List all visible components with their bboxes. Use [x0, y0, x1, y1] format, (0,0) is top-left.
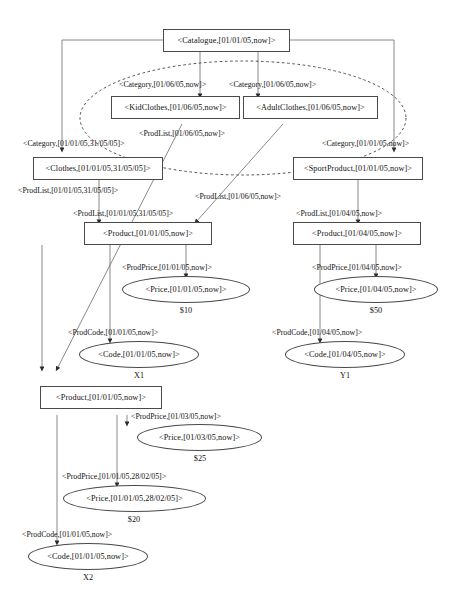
node-code-right-label: <Code,[01/04/05,now]>: [304, 350, 385, 359]
edge-label-prodlist-adult-mid: <ProdList,[01/06/05,now]>: [195, 192, 281, 201]
node-clothes[interactable]: <Clothes,[01/01/05,31/05/05]>: [33, 157, 163, 180]
node-adultclothes-label: <AdultClothes,[01/06/05,now]>: [256, 103, 365, 112]
edge-label-prodprice-right: <ProdPrice,[01/04/05,now]>: [312, 263, 402, 272]
node-product-bottom-label: <Product,[01/01/05,now]>: [56, 393, 146, 402]
edge-label-category-adult: <Category,[01/06/05,now]>: [229, 80, 316, 89]
node-product-left-label: <Product,[01/01/05,now]>: [103, 229, 193, 238]
edge-label-prodprice-left: <ProdPrice,[01/01/05,now]>: [122, 263, 212, 272]
node-sportproduct-label: <SportProduct,[01/01/05,now]>: [304, 164, 412, 173]
node-price-left-label: <Price,[01/01/05,now]>: [145, 285, 226, 294]
node-price-b2-label: <Price,[01/01/05,28/02/05]>: [86, 494, 183, 503]
node-clothes-label: <Clothes,[01/01/05,31/05/05]>: [46, 164, 151, 173]
value-price-b2: $20: [104, 515, 164, 524]
node-adultclothes[interactable]: <AdultClothes,[01/06/05,now]>: [243, 96, 378, 119]
edge-label-prodprice-b1: <ProdPrice,[01/03/05,now]>: [131, 412, 221, 421]
edge-label-category-sport: <Category,[01/01/05,now]>: [322, 139, 409, 148]
edge-label-prodlist-right: <ProdList,[01/04/05,now]>: [296, 209, 382, 218]
node-code-bottom[interactable]: <Code,[01/01/05,now]>: [28, 543, 148, 570]
node-price-b1-label: <Price,[01/03/05,now]>: [159, 433, 240, 442]
node-price-right[interactable]: <Price,[01/04/05,now]>: [314, 276, 438, 303]
diagram-canvas: <Catalogue,[01/01/05,now]> <KidClothes,[…: [0, 0, 451, 598]
edge-label-category-clothes: <Category,[01/01/05,31/05/05]>: [23, 139, 124, 148]
node-code-right[interactable]: <Code,[01/04/05,now]>: [285, 341, 405, 368]
node-code-left[interactable]: <Code,[01/01/05,now]>: [79, 341, 199, 368]
node-catalogue[interactable]: <Catalogue,[01/01/05,now]>: [163, 29, 290, 52]
node-kidclothes[interactable]: <KidClothes,[01/06/05,now]>: [111, 96, 240, 119]
edge-catalogue-sportproduct: [290, 40, 394, 150]
edge-label-prodlist-clothes-up: <ProdList,[01/01/05,31/05/05]>: [18, 186, 118, 195]
node-price-right-label: <Price,[01/04/05,now]>: [335, 285, 416, 294]
node-kidclothes-label: <KidClothes,[01/06/05,now]>: [125, 103, 227, 112]
value-code-right: Y1: [315, 371, 375, 380]
edge-label-category-kid: <Category,[01/06/05,now]>: [119, 80, 206, 89]
edge-adultclothes-product-left: [196, 124, 283, 222]
edge-label-prodcode-left: <ProdCode,[01/01/05,now]>: [68, 328, 158, 337]
node-price-b1[interactable]: <Price,[01/03/05,now]>: [137, 424, 262, 451]
node-product-right-label: <Product,[01/04/05,now]>: [312, 229, 402, 238]
edge-label-prodcode-right: <ProdCode,[01/04/05,now]>: [272, 328, 362, 337]
node-price-b2[interactable]: <Price,[01/01/05,28/02/05]>: [63, 485, 206, 512]
node-product-bottom[interactable]: <Product,[01/01/05,now]>: [40, 386, 162, 409]
node-code-bottom-label: <Code,[01/01/05,now]>: [47, 552, 128, 561]
value-price-left: $10: [156, 306, 216, 315]
node-product-left[interactable]: <Product,[01/01/05,now]>: [84, 222, 212, 245]
value-code-bottom: X2: [58, 573, 118, 582]
edge-label-prodlist-left: <ProdList,[01/01/05,31/05/05]>: [73, 209, 173, 218]
value-code-left: X1: [109, 371, 169, 380]
node-sportproduct[interactable]: <SportProduct,[01/01/05,now]>: [293, 157, 423, 180]
edge-label-prodcode-bottom: <ProdCode,[01/01/05,now]>: [22, 530, 112, 539]
node-price-left[interactable]: <Price,[01/01/05,now]>: [122, 276, 250, 303]
edge-label-prodlist-kid-top: <ProdList,[01/06/05,now]>: [139, 129, 225, 138]
value-price-b1: $25: [170, 454, 230, 463]
node-product-right[interactable]: <Product,[01/04/05,now]>: [293, 222, 421, 245]
edge-label-prodprice-b2: <ProdPrice,[01/01/05,28/02/05]>: [62, 472, 166, 481]
value-price-right: $50: [346, 306, 406, 315]
node-catalogue-label: <Catalogue,[01/01/05,now]>: [178, 36, 276, 45]
node-code-left-label: <Code,[01/01/05,now]>: [98, 350, 179, 359]
